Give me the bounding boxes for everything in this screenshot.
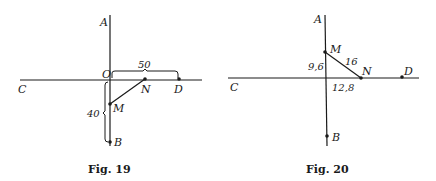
label-M: M — [329, 43, 342, 56]
label-N: N — [361, 65, 372, 78]
label-B: B — [113, 136, 122, 149]
point-B — [325, 134, 329, 138]
point-D — [177, 77, 181, 81]
diagram-canvas: A O C N D M B 50 40 Fig. 19 A M 16 9,6 N… — [0, 0, 436, 181]
point-N — [143, 77, 147, 81]
label-N: N — [140, 83, 151, 96]
caption-fig-20: Fig. 20 — [306, 163, 349, 176]
label-D: D — [173, 83, 183, 96]
point-B — [108, 140, 112, 144]
label-O: O — [102, 68, 111, 81]
figure-20: A M 16 9,6 N D 12,8 C B Fig. 20 — [228, 13, 419, 176]
figure-19: A O C N D M B 50 40 Fig. 19 — [18, 15, 202, 176]
measure-ON: 12,8 — [332, 82, 354, 93]
measure-OM: 9,6 — [308, 61, 325, 72]
brace-OB — [103, 82, 108, 142]
axis-AB — [325, 15, 327, 146]
point-M — [323, 50, 327, 54]
label-M: M — [112, 102, 125, 115]
measure-MN: 16 — [345, 56, 358, 67]
label-A: A — [99, 16, 108, 29]
label-B: B — [331, 131, 340, 144]
segment-MN — [110, 79, 145, 104]
measure-OB: 40 — [86, 108, 100, 119]
label-C: C — [18, 83, 27, 96]
label-D: D — [403, 65, 413, 78]
brace-OD — [112, 69, 178, 78]
point-M — [108, 102, 112, 106]
label-C: C — [230, 81, 239, 94]
measure-OD: 50 — [138, 59, 151, 70]
label-A: A — [313, 13, 322, 26]
caption-fig-19: Fig. 19 — [88, 163, 131, 176]
